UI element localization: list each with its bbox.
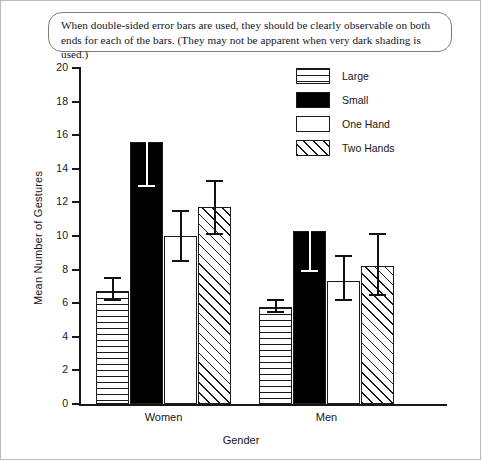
error-bar-cap-upper: [206, 180, 223, 182]
legend-label: One Hand: [342, 118, 390, 130]
error-bar-stem: [146, 98, 148, 185]
y-axis-tick: [72, 168, 80, 170]
error-bar-cap-lower: [369, 294, 386, 296]
y-axis-tick-label: 20: [28, 62, 68, 72]
legend-swatch-small: [296, 92, 330, 108]
error-bar-cap-lower: [267, 311, 284, 313]
legend-swatch-large: [296, 68, 330, 84]
y-axis-tick-label: 0: [28, 398, 68, 408]
error-bar-cap-upper: [369, 233, 386, 235]
legend-item: Two Hands: [296, 138, 446, 162]
legend-label: Large: [342, 70, 369, 82]
legend-label: Two Hands: [342, 142, 395, 154]
error-bar-cap-lower: [206, 233, 223, 235]
y-axis-tick: [72, 336, 80, 338]
y-axis-tick: [72, 369, 80, 371]
legend-label: Small: [342, 94, 368, 106]
error-bar-cap-upper: [267, 299, 284, 301]
error-bar-cap-lower: [138, 185, 155, 187]
y-axis-tick: [72, 201, 80, 203]
error-bar-stem: [214, 181, 216, 235]
x-axis-group-label-men: Men: [267, 411, 387, 423]
error-bar-cap-upper: [104, 277, 121, 279]
legend-swatch-two-hands: [296, 140, 330, 156]
error-bar-stem: [309, 189, 311, 271]
legend: LargeSmallOne HandTwo Hands: [296, 66, 446, 162]
error-bar-stem: [377, 234, 379, 294]
legend-item: One Hand: [296, 114, 446, 138]
error-bar-cap-lower: [335, 299, 352, 301]
legend-item: Small: [296, 90, 446, 114]
bar-men-large: [259, 307, 292, 404]
y-axis-tick: [72, 403, 80, 405]
y-axis-title: Mean Number of Gestures: [32, 138, 44, 338]
y-axis-tick: [72, 101, 80, 103]
y-axis-tick-label: 18: [28, 96, 68, 106]
error-bar-cap-lower: [104, 299, 121, 301]
error-bar-cap-upper: [138, 97, 155, 99]
error-bar-cap-upper: [172, 210, 189, 212]
bar-women-two-hands: [198, 207, 231, 404]
y-axis-tick: [72, 235, 80, 237]
y-axis-tick: [72, 302, 80, 304]
legend-item: Large: [296, 66, 446, 90]
y-axis-tick: [72, 134, 80, 136]
error-bar-stem: [180, 211, 182, 261]
error-bar-stem: [112, 278, 114, 300]
error-bar-stem: [343, 256, 345, 300]
x-axis-line: [79, 404, 447, 406]
error-bar-cap-upper: [335, 255, 352, 257]
error-bar-cap-lower: [172, 260, 189, 262]
legend-swatch-one-hand: [296, 116, 330, 132]
x-axis-title: Gender: [0, 434, 482, 446]
x-axis-group-label-women: Women: [104, 411, 224, 423]
y-axis-tick-label: 2: [28, 364, 68, 374]
error-bar-cap-lower: [301, 270, 318, 272]
y-axis-tick: [72, 269, 80, 271]
y-axis-tick: [72, 67, 80, 69]
bar-women-large: [96, 291, 129, 404]
error-bar-cap-upper: [301, 188, 318, 190]
